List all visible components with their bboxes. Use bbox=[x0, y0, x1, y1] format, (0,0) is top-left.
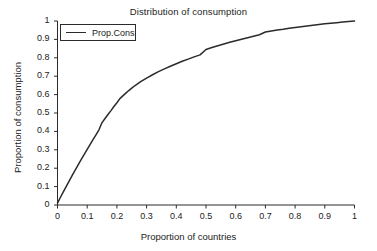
x-tick-label: 0 bbox=[43, 211, 73, 221]
axis-ticks bbox=[54, 21, 355, 209]
x-tick-label: 0.8 bbox=[280, 211, 310, 221]
legend-entry-prop-cons: Prop.Cons bbox=[61, 25, 135, 40]
x-tick-label: 0.1 bbox=[72, 211, 102, 221]
y-tick-label: 0.2 bbox=[20, 162, 50, 172]
y-tick-label: 0.5 bbox=[20, 107, 50, 117]
x-tick-label: 0.9 bbox=[310, 211, 340, 221]
x-tick-label: 0.7 bbox=[250, 211, 280, 221]
y-tick-label: 0.9 bbox=[20, 33, 50, 43]
y-tick-label: 1 bbox=[20, 15, 50, 25]
y-tick-label: 0.8 bbox=[20, 52, 50, 62]
x-tick-label: 1 bbox=[340, 211, 370, 221]
legend-line-swatch-icon bbox=[66, 32, 86, 33]
y-tick-label: 0 bbox=[20, 199, 50, 209]
x-tick-label: 0.6 bbox=[221, 211, 251, 221]
y-tick-label: 0.7 bbox=[20, 70, 50, 80]
y-tick-label: 0.1 bbox=[20, 181, 50, 191]
x-tick-label: 0.4 bbox=[161, 211, 191, 221]
x-tick-label: 0.2 bbox=[102, 211, 132, 221]
legend-entry-label: Prop.Cons bbox=[92, 28, 135, 38]
chart-legend: Prop.Cons bbox=[60, 24, 136, 41]
y-tick-label: 0.3 bbox=[20, 144, 50, 154]
series-line-prop-cons bbox=[58, 21, 355, 203]
axes bbox=[58, 21, 355, 205]
x-tick-label: 0.3 bbox=[132, 211, 162, 221]
x-tick-label: 0.5 bbox=[191, 211, 221, 221]
chart-figure: Distribution of consumption Proportion o… bbox=[0, 0, 377, 251]
y-tick-label: 0.6 bbox=[20, 89, 50, 99]
y-tick-label: 0.4 bbox=[20, 125, 50, 135]
